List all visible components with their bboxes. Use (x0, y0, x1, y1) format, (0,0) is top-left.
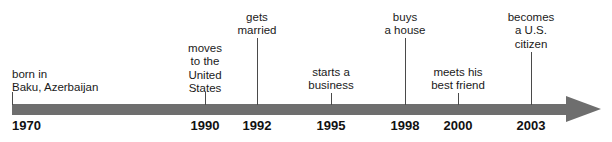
year-label-2000: 2000 (444, 118, 473, 133)
event-label-line: States (188, 82, 222, 95)
year-label-1995: 1995 (317, 118, 346, 133)
year-label-2003: 2003 (517, 118, 546, 133)
year-label-1970: 1970 (12, 118, 41, 133)
event-label-business: starts abusiness (308, 66, 353, 93)
event-label-line: meets his (431, 66, 485, 79)
event-stem-business (331, 93, 332, 105)
event-label-house: buysa house (385, 11, 426, 38)
event-label-line: best friend (431, 79, 485, 92)
event-stem-house (405, 38, 406, 105)
event-label-married: getsmarried (238, 11, 277, 38)
timeline-figure: born inBaku, Azerbaijanmovesto theUnited… (0, 0, 612, 142)
event-label-line: a U.S. (508, 24, 555, 37)
event-label-line: a house (385, 24, 426, 37)
event-label-line: United (188, 69, 222, 82)
event-stem-married (257, 38, 258, 105)
event-label-line: buys (385, 11, 426, 24)
event-label-line: moves (188, 42, 222, 55)
event-label-line: citizen (508, 38, 555, 51)
event-label-line: business (308, 79, 353, 92)
year-label-1998: 1998 (391, 118, 420, 133)
event-label-citizen: becomesa U.S.citizen (508, 11, 555, 51)
event-label-line: to the (188, 55, 222, 68)
event-stem-friend (458, 93, 459, 105)
timeline-arrow-icon (566, 96, 601, 122)
timeline-axis-bar (12, 104, 570, 115)
event-label-line: married (238, 24, 277, 37)
event-label-friend: meets hisbest friend (431, 66, 485, 93)
event-label-line: becomes (508, 11, 555, 24)
event-label-line: gets (238, 11, 277, 24)
event-stem-citizen (531, 52, 532, 105)
event-label-born: born inBaku, Azerbaijan (12, 68, 98, 95)
event-label-line: born in (12, 68, 98, 81)
year-label-1990: 1990 (191, 118, 220, 133)
year-label-1992: 1992 (243, 118, 272, 133)
event-label-moves: movesto theUnitedStates (188, 42, 222, 96)
event-label-line: Baku, Azerbaijan (12, 81, 98, 94)
event-label-line: starts a (308, 66, 353, 79)
